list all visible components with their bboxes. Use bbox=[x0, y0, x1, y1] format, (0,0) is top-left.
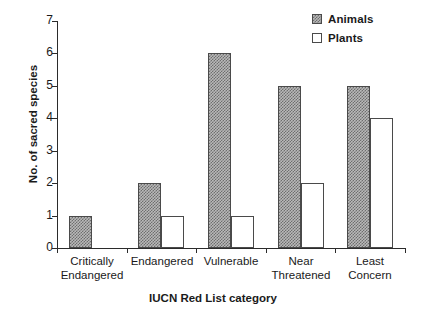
x-tick-label-0: CriticallyEndangered bbox=[57, 254, 127, 282]
x-tick-label-line: Least bbox=[335, 254, 405, 268]
x-tick-mark bbox=[266, 248, 267, 253]
bar-animals-2 bbox=[208, 53, 231, 248]
bar-animals-4 bbox=[347, 86, 370, 248]
bar-plants-3 bbox=[301, 183, 324, 248]
x-tick-label-line: Concern bbox=[335, 268, 405, 282]
x-tick-label-line: Near bbox=[266, 254, 336, 268]
x-axis-line bbox=[57, 248, 406, 249]
bar-plants-1 bbox=[161, 216, 184, 248]
x-tick-label-line: Critically bbox=[57, 254, 127, 268]
y-tick-label: 2 bbox=[46, 175, 53, 189]
x-tick-label-line: Vulnerable bbox=[196, 254, 266, 268]
bar-plants-4 bbox=[370, 118, 393, 248]
x-tick-label-1: Endangered bbox=[127, 254, 197, 268]
x-tick-mark bbox=[127, 248, 128, 253]
x-tick-label-line: Endangered bbox=[57, 268, 127, 282]
y-tick-label: 7 bbox=[46, 13, 53, 27]
bar-animals-3 bbox=[278, 86, 301, 248]
x-tick-label-3: NearThreatened bbox=[266, 254, 336, 282]
x-tick-mark bbox=[57, 248, 58, 253]
bar-animals-0 bbox=[69, 216, 92, 248]
x-axis-title: IUCN Red List category bbox=[0, 292, 426, 304]
y-tick-label: 4 bbox=[46, 110, 53, 124]
y-tick-label: 1 bbox=[46, 208, 53, 222]
bar-plants-2 bbox=[231, 216, 254, 248]
y-tick-label: 6 bbox=[46, 45, 53, 59]
chart-figure: Animals Plants No. of sacred species 012… bbox=[0, 0, 426, 317]
bar-animals-1 bbox=[138, 183, 161, 248]
y-tick-label: 5 bbox=[46, 78, 53, 92]
x-axis-tick-labels: CriticallyEndangeredEndangeredVulnerable… bbox=[57, 254, 405, 294]
y-axis-title: No. of sacred species bbox=[22, 0, 44, 248]
x-tick-label-line: Threatened bbox=[266, 268, 336, 282]
x-tick-label-line: Endangered bbox=[127, 254, 197, 268]
x-tick-mark bbox=[405, 248, 406, 253]
plot-area: 01234567 bbox=[57, 21, 405, 248]
x-tick-mark bbox=[335, 248, 336, 253]
x-tick-label-2: Vulnerable bbox=[196, 254, 266, 268]
bars-layer bbox=[57, 21, 405, 248]
x-tick-mark bbox=[196, 248, 197, 253]
x-tick-label-4: LeastConcern bbox=[335, 254, 405, 282]
y-tick-label: 3 bbox=[46, 143, 53, 157]
y-tick-label: 0 bbox=[46, 240, 53, 254]
